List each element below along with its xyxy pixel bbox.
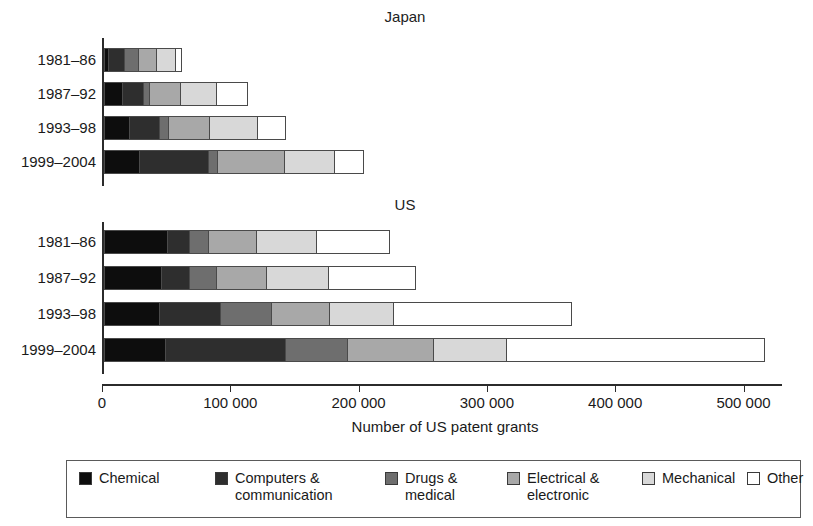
- bar-segment-mechanical: [181, 82, 217, 106]
- bar-segment-computers-communication: [130, 116, 161, 140]
- patent-grants-stacked-bar-chart: Japan 1981–861987–921993–981999–2004 US …: [0, 0, 813, 526]
- legend-item: Computers & communication: [215, 470, 333, 504]
- axis-tick: [744, 384, 745, 392]
- legend-label: Drugs & medical: [405, 470, 457, 504]
- category-label: 1993–98: [0, 119, 96, 136]
- legend-swatch-icon: [747, 472, 760, 485]
- bar-segment-chemical: [104, 116, 130, 140]
- bar-segment-chemical: [104, 230, 168, 254]
- axis-tick: [359, 384, 360, 392]
- plot-area-japan: [102, 38, 782, 186]
- axis-tick-label: 0: [98, 394, 106, 411]
- bar-segment-drugs-medical: [190, 266, 217, 290]
- legend-label: Computers & communication: [235, 470, 333, 504]
- legend: ChemicalComputers & communicationDrugs &…: [66, 460, 801, 518]
- bar-segment-electrical-electronic: [272, 302, 330, 326]
- axis-tick-label: 400 000: [588, 394, 642, 411]
- plot-area-us: [102, 222, 782, 374]
- category-label: 1981–86: [0, 233, 96, 250]
- bar-japan-1993–98: [104, 116, 286, 140]
- bar-segment-mechanical: [434, 338, 507, 362]
- bar-segment-computers-communication: [123, 82, 144, 106]
- bar-segment-mechanical: [330, 302, 394, 326]
- bar-segment-mechanical: [210, 116, 257, 140]
- axis-tick-label: 100 000: [203, 394, 257, 411]
- bar-us-1999–2004: [104, 338, 765, 362]
- bar-segment-other: [329, 266, 416, 290]
- bar-segment-computers-communication: [140, 150, 209, 174]
- category-label: 1981–86: [0, 51, 96, 68]
- bar-segment-electrical-electronic: [150, 82, 181, 106]
- bar-segment-electrical-electronic: [218, 150, 285, 174]
- legend-swatch-icon: [642, 472, 655, 485]
- legend-items: ChemicalComputers & communicationDrugs &…: [67, 461, 800, 517]
- axis-tick-label: 500 000: [716, 394, 770, 411]
- bar-segment-other: [217, 82, 248, 106]
- bar-segment-computers-communication: [162, 266, 190, 290]
- legend-item: Drugs & medical: [385, 470, 457, 504]
- bar-segment-computers-communication: [160, 302, 220, 326]
- bar-segment-other: [507, 338, 765, 362]
- axis-tick: [487, 384, 488, 392]
- category-label-wrap: 1987–92: [0, 85, 96, 102]
- axis-tick: [230, 384, 231, 392]
- bar-segment-chemical: [104, 302, 160, 326]
- legend-swatch-icon: [385, 472, 398, 485]
- bar-segment-electrical-electronic: [169, 116, 210, 140]
- legend-item: Chemical: [79, 470, 159, 487]
- legend-item: Other: [747, 470, 803, 487]
- bar-segment-other: [394, 302, 572, 326]
- bar-segment-chemical: [104, 82, 123, 106]
- legend-swatch-icon: [215, 472, 228, 485]
- bar-segment-computers-communication: [168, 230, 190, 254]
- axis-tick: [615, 384, 616, 392]
- bar-segment-drugs-medical: [160, 116, 169, 140]
- bar-segment-chemical: [104, 150, 140, 174]
- bar-us-1993–98: [104, 302, 572, 326]
- bar-segment-electrical-electronic: [139, 48, 157, 72]
- value-axis: [102, 384, 782, 386]
- bar-japan-1987–92: [104, 82, 248, 106]
- value-axis-title: Number of US patent grants: [352, 418, 539, 435]
- category-label-wrap: 1987–92: [0, 269, 96, 286]
- bar-segment-other: [258, 116, 286, 140]
- category-label-wrap: 1993–98: [0, 119, 96, 136]
- bar-segment-drugs-medical: [221, 302, 272, 326]
- category-label-wrap: 1981–86: [0, 233, 96, 250]
- bar-segment-drugs-medical: [190, 230, 209, 254]
- category-label: 1987–92: [0, 269, 96, 286]
- category-label: 1999–2004: [0, 341, 96, 358]
- legend-swatch-icon: [79, 472, 92, 485]
- bar-segment-other: [176, 48, 182, 72]
- bar-segment-mechanical: [267, 266, 329, 290]
- bar-segment-chemical: [104, 338, 166, 362]
- category-label: 1993–98: [0, 305, 96, 322]
- legend-item: Electrical & electronic: [507, 470, 600, 504]
- category-label: 1987–92: [0, 85, 96, 102]
- axis-tick-label: 200 000: [331, 394, 385, 411]
- legend-label: Mechanical: [662, 470, 735, 487]
- axis-tick-label: 300 000: [460, 394, 514, 411]
- category-label-wrap: 1999–2004: [0, 153, 96, 170]
- bar-segment-drugs-medical: [286, 338, 348, 362]
- legend-item: Mechanical: [642, 470, 735, 487]
- bar-segment-electrical-electronic: [209, 230, 256, 254]
- category-label-wrap: 1999–2004: [0, 341, 96, 358]
- bar-japan-1981–86: [104, 48, 182, 72]
- legend-label: Chemical: [99, 470, 159, 487]
- bar-segment-computers-communication: [109, 48, 124, 72]
- axis-tick: [102, 384, 103, 392]
- panel-title-japan: Japan: [385, 8, 426, 25]
- legend-label: Electrical & electronic: [527, 470, 600, 504]
- bar-segment-other: [335, 150, 365, 174]
- bar-segment-mechanical: [157, 48, 176, 72]
- bar-segment-mechanical: [257, 230, 317, 254]
- category-label-wrap: 1993–98: [0, 305, 96, 322]
- bar-japan-1999–2004: [104, 150, 364, 174]
- bar-segment-drugs-medical: [209, 150, 218, 174]
- category-label: 1999–2004: [0, 153, 96, 170]
- bar-segment-chemical: [104, 266, 162, 290]
- bar-segment-mechanical: [285, 150, 335, 174]
- bar-us-1981–86: [104, 230, 390, 254]
- bar-segment-electrical-electronic: [217, 266, 267, 290]
